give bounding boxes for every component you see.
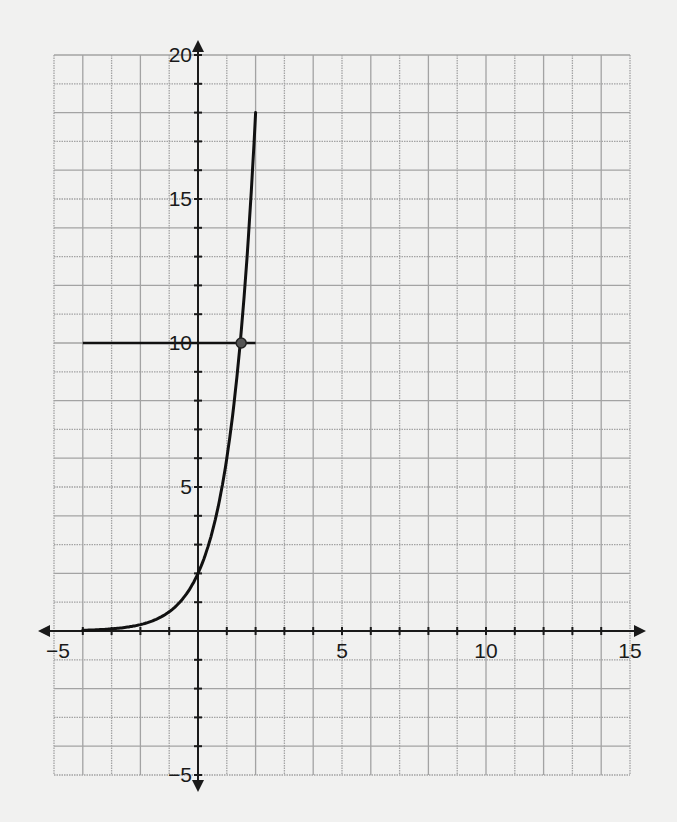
y-axis-up-arrow-icon bbox=[192, 40, 204, 52]
grid bbox=[54, 55, 630, 775]
intersection-point bbox=[236, 338, 246, 348]
y-label-20: 20 bbox=[169, 43, 192, 66]
x-label-10: 10 bbox=[474, 639, 497, 662]
y-label-neg5: −5 bbox=[168, 763, 192, 786]
y-label-10: 10 bbox=[169, 331, 192, 354]
x-axis-left-arrow-icon bbox=[38, 625, 50, 637]
y-label-5: 5 bbox=[180, 475, 192, 498]
x-label-neg5: −5 bbox=[46, 639, 70, 662]
x-label-15: 15 bbox=[618, 639, 641, 662]
y-label-15: 15 bbox=[169, 187, 192, 210]
graph: −5 5 10 15 20 15 10 5 −5 bbox=[0, 0, 677, 822]
x-axis-right-arrow-icon bbox=[634, 625, 646, 637]
x-axis-labels: −5 5 10 15 bbox=[46, 639, 642, 662]
y-axis-labels: 20 15 10 5 −5 bbox=[168, 43, 192, 786]
y-axis-down-arrow-icon bbox=[192, 780, 204, 792]
x-label-5: 5 bbox=[336, 639, 348, 662]
